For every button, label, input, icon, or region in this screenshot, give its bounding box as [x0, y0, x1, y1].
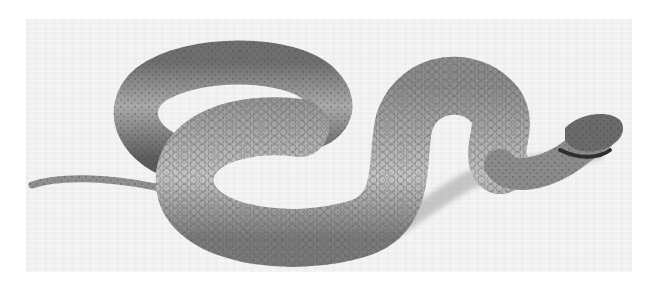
snake-photograph: [26, 19, 632, 272]
snake-illustration: [26, 19, 632, 272]
